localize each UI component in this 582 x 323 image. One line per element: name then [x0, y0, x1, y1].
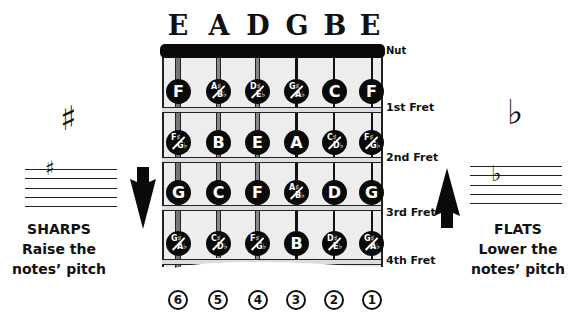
note-f4-s6: G♯A♭	[166, 231, 191, 256]
string-name-6: E	[163, 10, 193, 41]
fret-3	[162, 205, 381, 211]
note-f3-s3: A♯B♭	[284, 180, 309, 205]
string-name-4: D	[243, 10, 273, 41]
sharps-line2: notes’ pitch	[0, 259, 118, 279]
flat-symbol: ♭	[507, 92, 523, 132]
note-f3-s4: F	[245, 180, 270, 205]
note-f3-s6: G	[166, 180, 191, 205]
note-f1-s3: G♯A♭	[284, 79, 309, 104]
up-arrow-icon	[432, 168, 462, 228]
string-number-5: 5	[208, 290, 228, 310]
note-f3-s2: D	[322, 180, 347, 205]
staff-flat-symbol: ♭	[491, 161, 501, 186]
note-f3-s1: G	[359, 180, 384, 205]
note-f2-s3: A	[284, 130, 309, 155]
nut	[160, 44, 385, 58]
string-name-2: B	[320, 10, 350, 41]
note-f4-s4: F♯G♭	[245, 231, 270, 256]
nut-label: Nut	[386, 45, 406, 56]
string-name-1: E	[355, 10, 385, 41]
string-number-1: 1	[362, 290, 382, 310]
sharp-symbol: ♯	[60, 98, 76, 138]
note-f4-s3: B	[284, 231, 309, 256]
fret-label-3: 3rd Fret	[386, 206, 436, 219]
note-f1-s4: D♯E♭	[245, 79, 270, 104]
string-number-4: 4	[248, 290, 268, 310]
string-name-5: A	[204, 10, 234, 41]
note-f2-s6: F♯G♭	[166, 130, 191, 155]
sharps-title: SHARPS	[0, 219, 118, 239]
note-f2-s1: F♯G♭	[359, 130, 384, 155]
string-number-6: 6	[168, 290, 188, 310]
note-f4-s1: G♯A♭	[359, 231, 384, 256]
staff-sharp-symbol: ♯	[45, 156, 55, 180]
note-f2-s2: C♯D♭	[322, 130, 347, 155]
fret-2	[162, 157, 381, 163]
note-f1-s1: F	[359, 79, 384, 104]
note-f4-s2: D♯E♭	[322, 231, 347, 256]
string-number-2: 2	[324, 290, 344, 310]
string-number-3: 3	[286, 290, 306, 310]
fret-1	[162, 107, 381, 113]
note-f1-s5: A♯B♭	[206, 79, 231, 104]
string-name-3: G	[282, 10, 312, 41]
note-f2-s4: E	[245, 130, 270, 155]
flats-line1: Lower the	[460, 239, 576, 259]
note-f4-s5: C♯D♭	[206, 231, 231, 256]
sharps-line1: Raise the	[0, 239, 118, 259]
flats-line2: notes’ pitch	[460, 259, 576, 279]
flats-title: FLATS	[460, 219, 576, 239]
fret-label-2: 2nd Fret	[386, 151, 438, 164]
note-f3-s5: C	[206, 180, 231, 205]
note-f2-s5: B	[206, 130, 231, 155]
down-arrow-icon	[128, 167, 158, 229]
fret-label-4: 4th Fret	[386, 254, 436, 267]
note-f1-s2: C	[322, 79, 347, 104]
fret-label-1: 1st Fret	[386, 101, 434, 114]
note-f1-s6: F	[166, 79, 191, 104]
